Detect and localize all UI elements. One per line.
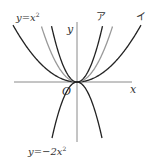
x-axis-label: x bbox=[130, 83, 137, 96]
parabola-graph: y x O y=x2 ア イ y=−2x2 bbox=[0, 0, 148, 162]
y-axis-label: y bbox=[66, 23, 74, 36]
label-y-eq-neg2x2: y=−2x2 bbox=[27, 145, 66, 157]
label-a: ア bbox=[96, 11, 106, 22]
label-i: イ bbox=[136, 11, 146, 22]
label-y-eq-x2: y=x2 bbox=[15, 11, 40, 23]
origin-label: O bbox=[62, 85, 71, 98]
